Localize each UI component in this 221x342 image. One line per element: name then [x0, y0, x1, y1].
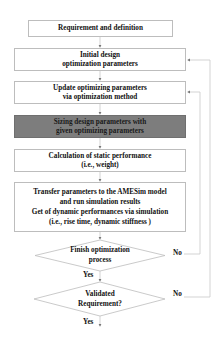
- step-initial-design: Initial design optimization parameters: [14, 48, 186, 71]
- step-label: via optimization method: [63, 93, 138, 102]
- decision-finish-yes-label: Yes: [83, 271, 93, 280]
- step-update-params: Update optimizing parameters via optimiz…: [14, 81, 186, 104]
- step-label: and run simulation results: [60, 197, 141, 207]
- step-label: Update optimizing parameters: [53, 84, 147, 93]
- decision-validated-yes-label: Yes: [83, 318, 93, 327]
- step-sizing-highlighted: Sizing design parameters with given opti…: [14, 115, 186, 138]
- decision-finish-optimization: Finish optimization process: [50, 245, 150, 265]
- decision-label: process: [50, 255, 150, 265]
- decision-label: Validated: [50, 289, 150, 299]
- decision-finish-no-label: No: [173, 249, 182, 258]
- step-label: Sizing design parameters with: [54, 118, 146, 127]
- step-label: optimization parameters: [62, 60, 138, 69]
- step-static-calc: Calculation of static performance (i.e.,…: [14, 149, 186, 172]
- step-requirement: Requirement and definition: [28, 20, 173, 37]
- decision-label: Requirement?: [50, 299, 150, 309]
- step-label: Initial design: [80, 51, 120, 60]
- step-label: given optimizing parameters: [56, 127, 144, 136]
- step-label: Calculation of static performance: [49, 152, 152, 161]
- step-amesim-simulation: Transfer parameters to the AMESim model …: [14, 182, 186, 232]
- step-label: Requirement and definition: [58, 24, 143, 33]
- step-label: (i.e., weight): [81, 161, 119, 170]
- step-label: (i.e., rise time, dynamic stiffness ): [49, 217, 151, 227]
- step-label: Transfer parameters to the AMESim model: [33, 187, 166, 197]
- decision-label: Finish optimization: [50, 245, 150, 255]
- decision-validated-requirement: Validated Requirement?: [50, 289, 150, 309]
- decision-validated-no-label: No: [173, 290, 182, 299]
- step-label: Get of dynamic performances via simulati…: [32, 207, 168, 217]
